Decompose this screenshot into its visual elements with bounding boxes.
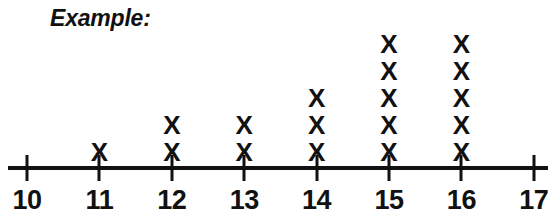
axis-label-16: 16 — [431, 184, 491, 216]
axis-label-12: 12 — [142, 184, 202, 216]
mark-stack-14: XXX — [297, 85, 337, 166]
x-mark: X — [236, 112, 253, 139]
x-mark: X — [453, 58, 470, 85]
x-mark: X — [308, 112, 325, 139]
x-mark: X — [308, 139, 325, 166]
mark-stack-12: XX — [152, 112, 192, 166]
axis-label-10: 10 — [0, 184, 57, 216]
mark-stack-11: X — [79, 139, 119, 166]
axis-label-17: 17 — [504, 184, 556, 216]
axis-label-14: 14 — [287, 184, 347, 216]
x-mark: X — [453, 112, 470, 139]
axis-tick-10 — [26, 155, 29, 181]
axis-label-11: 11 — [69, 184, 129, 216]
x-mark: X — [380, 112, 397, 139]
axis-label-15: 15 — [359, 184, 419, 216]
x-mark: X — [308, 85, 325, 112]
x-mark: X — [236, 139, 253, 166]
x-mark: X — [91, 139, 108, 166]
x-mark: X — [163, 112, 180, 139]
x-mark: X — [380, 85, 397, 112]
dot-plot-figure: Example: 1011121314151617 XXXXXXXXXXXXXX… — [0, 0, 556, 220]
axis-tick-17 — [532, 155, 535, 181]
x-mark: X — [453, 31, 470, 58]
x-mark: X — [380, 139, 397, 166]
x-mark: X — [380, 58, 397, 85]
mark-stack-13: XX — [224, 112, 264, 166]
axis-label-13: 13 — [214, 184, 274, 216]
x-mark: X — [380, 31, 397, 58]
x-mark: X — [453, 139, 470, 166]
figure-title: Example: — [50, 4, 151, 32]
mark-stack-16: XXXXX — [441, 31, 481, 166]
x-mark: X — [163, 139, 180, 166]
mark-stack-15: XXXXX — [369, 31, 409, 166]
x-mark: X — [453, 85, 470, 112]
